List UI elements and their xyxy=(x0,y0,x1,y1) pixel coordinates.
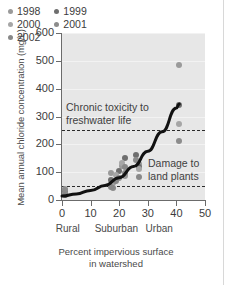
legend-item-2002[interactable]: 2002 xyxy=(8,31,40,43)
legend-label: 2001 xyxy=(63,18,86,30)
legend-dot-icon xyxy=(54,22,59,27)
legend-label: 2000 xyxy=(17,18,40,30)
chloride-concentration-figure: Mean annual chloride concentration (mg/L… xyxy=(0,0,230,285)
legend-label: 1998 xyxy=(17,5,40,17)
x-axis-title-line2: in watershed xyxy=(18,258,214,270)
legend-item-2000[interactable]: 2000 xyxy=(8,18,40,30)
legend: 19981999200020012002 xyxy=(8,5,87,43)
x-axis-title: Percent impervious surface in watershed xyxy=(18,246,214,270)
legend-item-1999[interactable]: 1999 xyxy=(54,5,86,17)
legend-dot-icon xyxy=(54,9,59,14)
legend-dot-icon xyxy=(8,35,13,40)
legend-dot-icon xyxy=(8,22,13,27)
legend-label: 2002 xyxy=(17,31,40,43)
legend-item-1998[interactable]: 1998 xyxy=(8,5,40,17)
x-axis-title-line1: Percent impervious surface xyxy=(18,246,214,258)
legend-label: 1999 xyxy=(63,5,86,17)
legend-item-2001[interactable]: 2001 xyxy=(54,18,86,30)
legend-dot-icon xyxy=(8,9,13,14)
